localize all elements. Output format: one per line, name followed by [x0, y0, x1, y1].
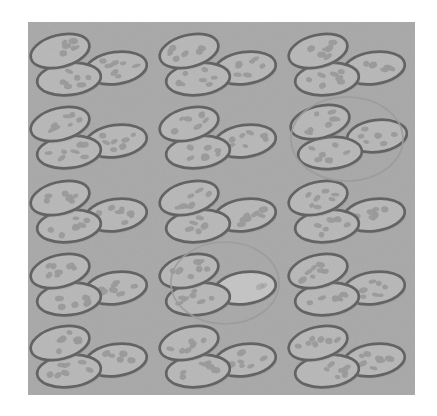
cell-spot: [74, 75, 80, 81]
micrograph-panel: [0, 0, 437, 416]
figure-root: A): [0, 0, 437, 416]
